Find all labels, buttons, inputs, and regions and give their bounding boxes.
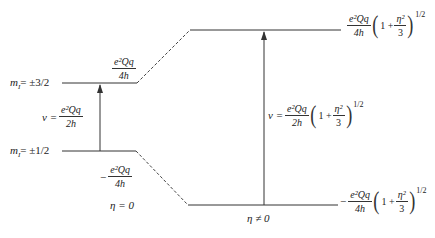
denominator: 4h xyxy=(113,177,127,189)
fraction: η² 3 xyxy=(396,189,408,214)
numerator: e²Qq xyxy=(59,104,83,117)
prefix: v = xyxy=(42,111,57,123)
label-mi-1-2: mI= ±1/2 xyxy=(10,145,49,159)
one-plus: 1 + xyxy=(380,20,393,31)
energy-right-upper: e²Qq 4h ( 1 + η² 3 ) 1/2 xyxy=(347,12,425,38)
fraction: e²Qq 4h xyxy=(348,189,372,214)
fraction: η² 3 xyxy=(333,103,345,128)
energy-right-lower: − e²Qq 4h ( 1 + η² 3 ) 1/2 xyxy=(340,188,427,214)
denominator: 3 xyxy=(334,116,343,128)
fraction: η² 3 xyxy=(394,13,406,38)
arrowhead-left-icon xyxy=(97,84,103,93)
arrowhead-right-icon xyxy=(261,31,267,40)
one-plus: 1 + xyxy=(318,110,331,121)
fraction: e²Qq 2h xyxy=(285,103,309,128)
condition-eta-zero: η = 0 xyxy=(110,200,134,211)
denominator: 4h xyxy=(117,69,131,81)
label-value: = ±1/2 xyxy=(20,144,49,156)
numerator: e²Qq xyxy=(348,189,372,202)
label-mi-3-2: mI= ±3/2 xyxy=(10,77,49,91)
condition-eta-nonzero: η ≠ 0 xyxy=(247,213,270,224)
denominator: 2h xyxy=(290,116,304,128)
numerator: η² xyxy=(333,103,345,116)
label-m: m xyxy=(10,76,18,88)
numerator: e²Qq xyxy=(347,13,371,26)
numerator: η² xyxy=(396,189,408,202)
denominator: 4h xyxy=(352,26,366,38)
right-paren: ) xyxy=(346,102,352,128)
exponent: 1/2 xyxy=(416,186,426,195)
connector-lower-dashed xyxy=(136,151,188,205)
left-paren: ( xyxy=(372,12,378,38)
fraction: e²Qq 2h xyxy=(59,104,83,129)
transition-left-label: v = e²Qq 2h xyxy=(42,104,83,129)
energy-left-lower: − e²Qq 4h xyxy=(100,164,132,189)
numerator: e²Qq xyxy=(108,164,132,177)
exponent: 1/2 xyxy=(415,10,425,19)
energy-left-upper: e²Qq 4h xyxy=(112,56,136,81)
numerator: e²Qq xyxy=(112,56,136,69)
left-paren: ( xyxy=(310,102,316,128)
fraction: e²Qq 4h xyxy=(112,56,136,81)
sign: − xyxy=(100,171,106,183)
prefix: v = xyxy=(268,109,283,121)
fraction: e²Qq 4h xyxy=(108,164,132,189)
label-value: = ±3/2 xyxy=(20,76,49,88)
label-m: m xyxy=(10,144,18,156)
connector-upper-dashed xyxy=(137,30,190,83)
transition-right-label: v = e²Qq 2h ( 1 + η² 3 ) 1/2 xyxy=(268,102,363,128)
exponent: 1/2 xyxy=(353,100,363,109)
denominator: 3 xyxy=(397,202,406,214)
sign: − xyxy=(340,195,346,207)
denominator: 3 xyxy=(396,26,405,38)
numerator: η² xyxy=(394,13,406,26)
denominator: 2h xyxy=(64,117,78,129)
numerator: e²Qq xyxy=(285,103,309,116)
left-paren: ( xyxy=(373,188,379,214)
right-paren: ) xyxy=(409,188,415,214)
one-plus: 1 + xyxy=(382,196,395,207)
fraction: e²Qq 4h xyxy=(347,13,371,38)
denominator: 4h xyxy=(353,202,367,214)
right-paren: ) xyxy=(408,12,414,38)
